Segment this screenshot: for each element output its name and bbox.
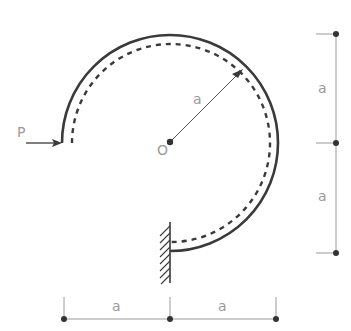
dim-right-top-label: a: [318, 80, 327, 96]
center-label: O: [157, 142, 168, 158]
dim-bottom-right-label: a: [218, 298, 227, 314]
force-label: P: [17, 124, 25, 140]
right-dimension: [316, 31, 339, 256]
diagram-canvas: P O a a a a a: [0, 0, 351, 331]
force-p-arrow-icon: [26, 139, 62, 147]
radius-label: a: [193, 91, 202, 107]
bottom-dimension: [61, 297, 279, 322]
dim-right-bottom-label: a: [318, 188, 327, 204]
radius-line: [170, 72, 240, 142]
fixed-wall-support: [160, 222, 170, 284]
dim-bottom-left-label: a: [112, 298, 121, 314]
